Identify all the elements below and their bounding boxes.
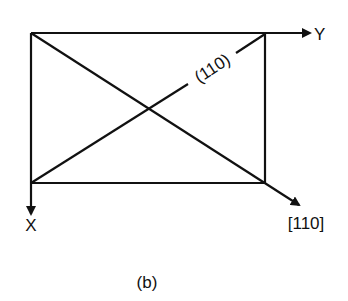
plane-110-line-upper (236, 34, 265, 53)
direction-110-label: [110] (288, 214, 325, 233)
direction-110-arrow (31, 33, 299, 205)
crystal-plane-diagram: (110) Y X [110] (b) (0, 0, 348, 301)
y-axis-label: Y (314, 25, 325, 44)
plane-110-line-lower (31, 84, 188, 183)
figure-caption: (b) (137, 273, 158, 292)
x-axis-label: X (25, 216, 36, 235)
plane-110-label: (110) (191, 50, 234, 87)
